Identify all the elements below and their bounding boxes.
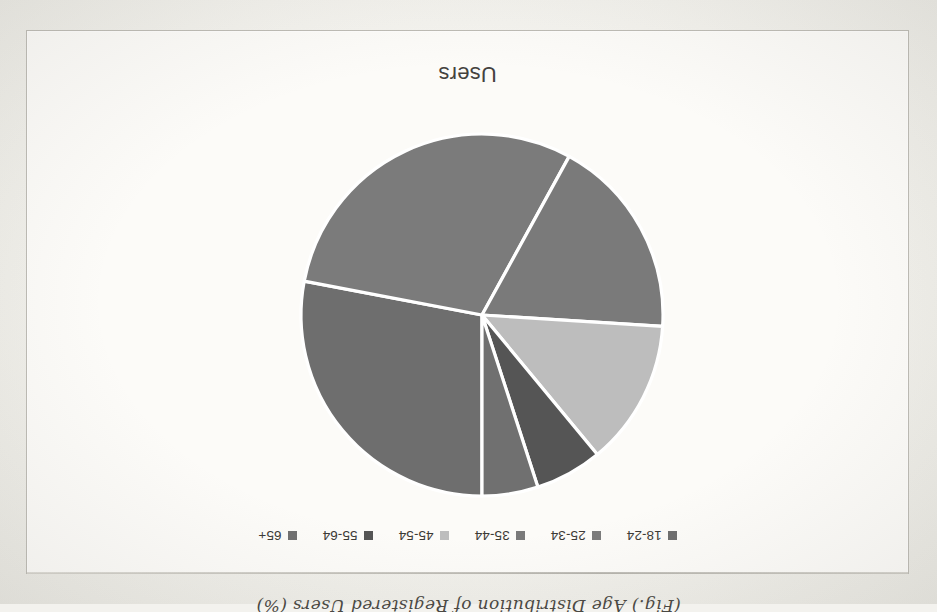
figure-caption-strip: (Fig.) Age Distribution of Registered Us… (0, 586, 937, 612)
chart-frame: 18-24 25-34 35-44 45-54 55-64 65+ (26, 30, 909, 574)
pie-slice-group (301, 134, 663, 496)
pie-slice-18-24[interactable] (301, 281, 482, 496)
figure-caption: (Fig.) Age Distribution of Registered Us… (0, 596, 937, 612)
pie-chart[interactable] (292, 125, 672, 505)
chart-title: Users (27, 61, 908, 87)
pie-plot-area (27, 31, 908, 573)
